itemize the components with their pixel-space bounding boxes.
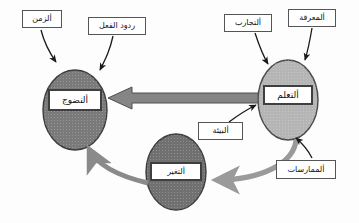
callout-time-label: ألزمن — [32, 15, 51, 23]
callout-reactions[interactable]: ردود الفعل — [88, 17, 146, 35]
arrow-practices-to-learning — [296, 138, 312, 158]
arrow-change-to-maturity — [89, 149, 148, 183]
node-label-change[interactable]: ألتغير — [150, 162, 202, 181]
arrow-reactions-to-maturity — [100, 36, 113, 70]
diagram-canvas: ألنضوج ألتعلم ألتغير ألزمن ردود الفعل أل… — [0, 0, 359, 223]
node-label-change-text: ألتغير — [167, 168, 185, 176]
node-label-learning[interactable]: ألتعلم — [263, 85, 313, 105]
callout-experiences[interactable]: ألتجارب — [224, 14, 272, 32]
arrow-environment-to-learning — [229, 105, 256, 122]
callout-reactions-label: ردود الفعل — [99, 22, 135, 30]
arrow-knowledge-to-learning — [305, 28, 312, 60]
arrow-experiences-to-learning — [255, 33, 268, 64]
node-label-learning-text: ألتعلم — [277, 91, 298, 100]
node-label-maturity[interactable]: ألنضوج — [48, 89, 102, 111]
callout-environment-label: ألبيئة — [212, 127, 228, 135]
callout-practices-label: ألممارسات — [288, 166, 325, 174]
diagram-vector-layer — [0, 0, 359, 223]
callout-knowledge-label: ألمعرفة — [299, 14, 325, 22]
arrow-time-to-maturity — [41, 30, 56, 62]
callout-time[interactable]: ألزمن — [22, 10, 62, 28]
callout-knowledge[interactable]: ألمعرفة — [288, 9, 336, 27]
callout-practices[interactable]: ألممارسات — [276, 160, 336, 179]
callout-environment[interactable]: ألبيئة — [198, 122, 243, 140]
node-label-maturity-text: ألنضوج — [62, 96, 88, 105]
arrow-learning-to-maturity — [108, 87, 258, 109]
callout-experiences-label: ألتجارب — [235, 19, 261, 27]
